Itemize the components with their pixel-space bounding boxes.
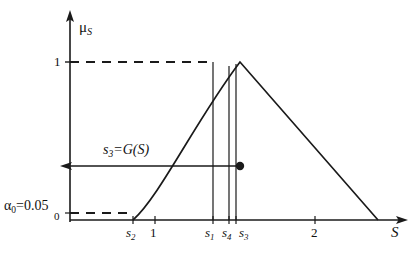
membership-curve bbox=[133, 62, 378, 220]
y-tick-label-one: 1 bbox=[54, 55, 61, 68]
x-axis-label: S bbox=[391, 225, 399, 240]
vertical-marker-lines bbox=[213, 62, 236, 220]
y-tick-label-zero: 0 bbox=[54, 211, 60, 222]
defuzzification-arrow-label: s3=G(S) bbox=[103, 143, 149, 157]
defuzzified-point-marker bbox=[236, 162, 244, 170]
x-tick-label-one: 1 bbox=[150, 226, 157, 239]
x-tick-label-s3: s3 bbox=[239, 226, 248, 239]
y-axis-label: μS bbox=[79, 20, 92, 35]
x-tick-label-s1: s1 bbox=[205, 226, 214, 239]
x-tick-label-s4: s4 bbox=[222, 226, 231, 239]
figure-canvas bbox=[0, 0, 414, 256]
x-tick-label-s2: s2 bbox=[126, 226, 135, 239]
defuzzification-arrow bbox=[60, 162, 244, 170]
x-axis bbox=[70, 216, 408, 224]
x-tick-label-two: 2 bbox=[311, 226, 318, 239]
fuzzy-membership-figure: μS 1 0 α0=0.05 s2 1 s1 s4 s3 2 S s3=G(S) bbox=[0, 0, 414, 256]
alpha-cut-label: α0=0.05 bbox=[4, 199, 49, 213]
y-axis bbox=[66, 10, 74, 222]
